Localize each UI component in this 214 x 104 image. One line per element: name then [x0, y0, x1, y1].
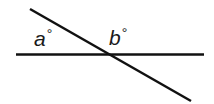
angle-label-b: b°: [109, 27, 127, 48]
angle-letter-b: b: [109, 26, 121, 49]
angle-letter-a: a: [34, 27, 46, 50]
degree-symbol-b: °: [122, 25, 128, 41]
angle-diagram: a° b°: [0, 0, 214, 104]
angle-label-a: a°: [34, 28, 52, 49]
lines-canvas: [0, 0, 214, 104]
degree-symbol-a: °: [47, 26, 53, 42]
